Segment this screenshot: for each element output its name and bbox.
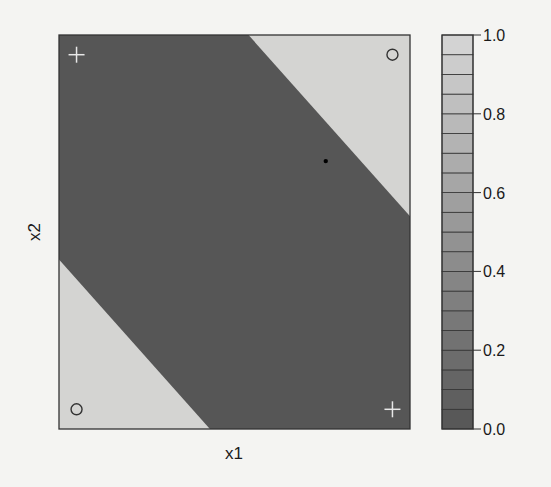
colorbar-tick-label: 0.8 — [483, 106, 505, 123]
colorbar-segment — [442, 212, 473, 232]
colorbar-segment — [442, 331, 473, 351]
colorbar-tick-label: 0.4 — [483, 263, 505, 280]
colorbar-segment — [442, 55, 473, 75]
colorbar-tick-label: 1.0 — [483, 27, 505, 44]
colorbar-segment — [442, 350, 473, 370]
chart: 0.00.20.40.60.81.0 x1 x2 — [0, 0, 551, 487]
colorbar-segment — [442, 114, 473, 134]
colorbar-segment — [442, 271, 473, 291]
colorbar-segment — [442, 390, 473, 410]
colorbar-tick-label: 0.2 — [483, 342, 505, 359]
x-axis-label: x1 — [225, 444, 243, 463]
colorbar-segment — [442, 35, 473, 55]
colorbar-segment — [442, 74, 473, 94]
colorbar-segment — [442, 193, 473, 213]
colorbar-segment — [442, 173, 473, 193]
colorbar-segment — [442, 94, 473, 114]
colorbar-tick-label: 0.0 — [483, 421, 505, 438]
colorbar-segment — [442, 311, 473, 331]
colorbar-segment — [442, 409, 473, 429]
dot-marker — [324, 159, 328, 163]
plot-area — [59, 35, 410, 429]
colorbar-segment — [442, 134, 473, 154]
colorbar-segment — [442, 252, 473, 272]
colorbar-segment — [442, 370, 473, 390]
colorbar-segment — [442, 232, 473, 252]
colorbar-tick-label: 0.6 — [483, 185, 505, 202]
colorbar-segment — [442, 153, 473, 173]
colorbar-segment — [442, 291, 473, 311]
colorbar: 0.00.20.40.60.81.0 — [442, 27, 505, 438]
y-axis-label: x2 — [25, 223, 44, 241]
